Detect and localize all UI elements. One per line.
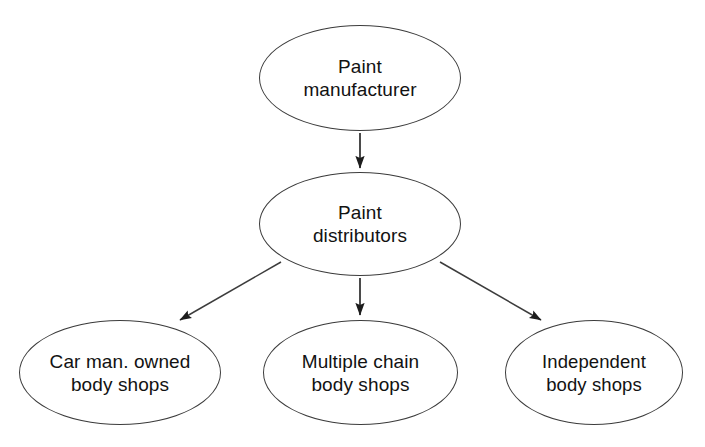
edge-distributors-car-man [180,262,281,320]
node-label: Car man. owned body shops [46,350,195,396]
node-independent-body-shops: Independent body shops [505,320,683,425]
node-label: Paint manufacturer [299,55,420,101]
node-label: Paint distributors [309,201,411,247]
node-paint-distributors: Paint distributors [259,172,461,276]
node-paint-manufacturer: Paint manufacturer [259,25,461,131]
node-label: Multiple chain body shops [298,350,424,396]
node-label: Independent body shops [538,350,650,396]
node-car-man-owned-body-shops: Car man. owned body shops [19,320,221,425]
edge-distributors-independent [440,262,541,320]
node-multiple-chain-body-shops: Multiple chain body shops [263,320,458,425]
flow-diagram: Paint manufacturer Paint distributors Ca… [0,0,705,447]
